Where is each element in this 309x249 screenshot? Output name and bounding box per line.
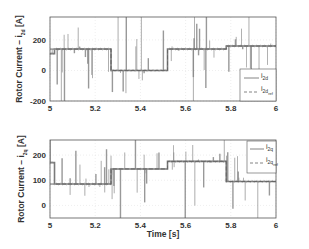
axes-frame-bottom (50, 140, 276, 218)
x-tick-label: 5.8 (225, 104, 237, 113)
plot-rotor-current-d: -2000200 55.25.45.65.86 Rotor Current – … (14, 15, 279, 113)
x-tick-label: 5.4 (135, 104, 147, 113)
y-tick-label: 200 (33, 151, 47, 160)
chart-figure: -2000200 55.25.45.65.86 Rotor Current – … (0, 0, 309, 249)
x-axis-label: Time [s] (147, 229, 180, 239)
y-axis-label-bottom: Rotor Current – i2q [A] (16, 135, 28, 223)
y-tick-label: 0 (42, 66, 47, 75)
plot-rotor-current-q: 0100200 55.25.45.65.86 Rotor Current – i… (16, 135, 279, 239)
legend-bottom: i2q i2qref (247, 141, 279, 173)
x-tick-label: 6 (274, 221, 279, 230)
legend-top: i2d i2dref (240, 69, 276, 101)
y-tick-label: 100 (33, 176, 47, 185)
y-ticks-top: -2000200 (30, 36, 47, 106)
x-tick-label: 5.8 (225, 221, 237, 230)
transient-spikes-bottom (51, 140, 270, 218)
y-tick-label: 0 (42, 201, 47, 210)
x-tick-label: 5.6 (180, 221, 192, 230)
x-tick-label: 5 (48, 221, 53, 230)
grid-bottom (50, 140, 276, 218)
x-tick-label: 5 (48, 104, 53, 113)
x-ticks-top: 55.25.45.65.86 (48, 104, 279, 113)
x-tick-label: 6 (274, 104, 279, 113)
x-tick-label: 5.6 (180, 104, 192, 113)
y-tick-label: -200 (30, 97, 47, 106)
y-ticks-bottom: 0100200 (33, 151, 47, 210)
x-tick-label: 5.2 (90, 104, 102, 113)
series-bottom (50, 160, 276, 184)
x-tick-label: 5.4 (135, 221, 147, 230)
y-axis-label-top: Rotor Current – i2d [A] (14, 15, 26, 103)
x-tick-label: 5.2 (90, 221, 102, 230)
y-tick-label: 200 (33, 36, 47, 45)
